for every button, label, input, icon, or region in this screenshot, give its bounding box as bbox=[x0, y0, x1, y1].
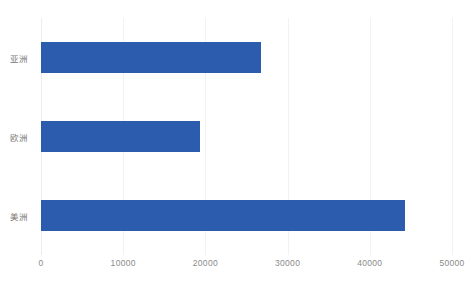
x-tick-label-30000: 30000 bbox=[275, 258, 300, 268]
value-axis: 01000020000300004000050000 bbox=[41, 258, 452, 278]
x-tick-label-10000: 10000 bbox=[111, 258, 136, 268]
x-tick-label-50000: 50000 bbox=[439, 258, 464, 268]
bar-1[interactable] bbox=[41, 121, 200, 152]
bar-chart: 亚洲 欧洲 美洲 01000020000300004000050000 bbox=[0, 0, 465, 283]
category-label-0: 亚洲 bbox=[2, 52, 36, 64]
x-tick-label-20000: 20000 bbox=[193, 258, 218, 268]
category-label-1: 欧洲 bbox=[2, 131, 36, 143]
category-label-2: 美洲 bbox=[2, 210, 36, 222]
bar-0[interactable] bbox=[41, 42, 261, 73]
bar-2[interactable] bbox=[41, 200, 405, 231]
gridline-50000 bbox=[452, 18, 453, 255]
category-axis: 亚洲 欧洲 美洲 bbox=[0, 18, 41, 255]
plot-area bbox=[41, 18, 452, 255]
x-tick-label-0: 0 bbox=[38, 258, 43, 268]
bars-layer bbox=[41, 18, 452, 255]
x-tick-label-40000: 40000 bbox=[357, 258, 382, 268]
